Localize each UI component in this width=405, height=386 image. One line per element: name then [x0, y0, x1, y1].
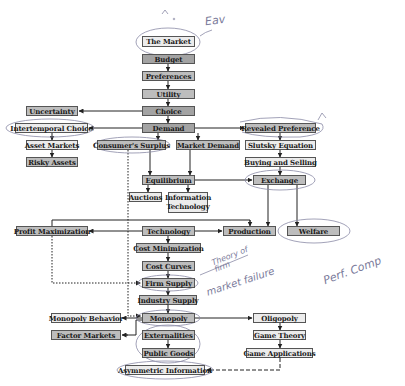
node-monopoly: Monopoly [142, 313, 195, 323]
node-market-demand: Market Demand [176, 140, 240, 150]
node-profit-maximization: Profit Maximization [16, 226, 88, 236]
node-factor-markets: Factor Markets [51, 330, 121, 340]
node-public-goods: Public Goods [142, 348, 195, 358]
node-asset-markets: Asset Markets [26, 140, 78, 150]
node-choice: Choice [142, 106, 195, 116]
node-cost-minimization: Cost Minimization [136, 243, 201, 253]
node-information-technology: Information Technology [168, 192, 208, 213]
node-exchange: Exchange [253, 175, 306, 185]
node-asymmetric-information: Asymmetric Information [125, 365, 205, 375]
node-uncertainty: Uncertainty [26, 106, 78, 116]
node-buying-and-selling: Buying and Selling [245, 157, 316, 167]
node-slutsky-equation: Slutsky Equation [245, 140, 316, 150]
node-technology: Technology [142, 226, 195, 236]
node-risky-assets: Risky Assets [26, 157, 78, 167]
node-revealed-preference: Revealed Preference [245, 123, 316, 133]
node-the-market: The Market [142, 36, 195, 47]
node-firm-supply: Firm Supply [142, 278, 195, 288]
node-intertemporal-choice: Intertemporal Choice [15, 123, 88, 133]
node-oligopoly: Oligopoly [253, 313, 306, 323]
node-game-theory: Game Theory [253, 330, 306, 340]
node-budget: Budget [142, 54, 195, 64]
node-industry-supply: Industry Supply [139, 295, 197, 305]
node-welfare: Welfare [287, 226, 340, 236]
node-equilibrium: Equilibrium [142, 175, 195, 185]
node-externalities: Externalities [142, 330, 195, 340]
diagram-canvas: The Market Budget Preferences Utility Ch… [0, 0, 405, 386]
node-monopoly-behavior: Monopoly Behavior [51, 313, 121, 323]
node-auctions: Auctions [129, 192, 162, 202]
node-game-applications: Game Applications [246, 348, 313, 358]
node-demand: Demand [142, 123, 195, 133]
node-consumers-surplus: Consumer's Surplus [97, 140, 166, 150]
node-preferences: Preferences [142, 71, 195, 81]
node-production: Production [223, 226, 276, 236]
node-cost-curves: Cost Curves [142, 261, 195, 271]
annotation-eav: Eav [204, 13, 226, 29]
node-utility: Utility [142, 89, 195, 99]
